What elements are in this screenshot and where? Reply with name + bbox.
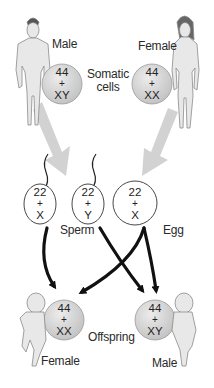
somatic-caption-line2: cells [86, 81, 130, 94]
sex-chromosomes: XX [50, 325, 78, 337]
egg-x-chromosomes: 22 + X [122, 186, 148, 221]
sex-chromosomes: XY [141, 325, 169, 337]
sex-chromosome: X [27, 209, 53, 221]
autosome-count: 44 [141, 302, 169, 314]
autosome-count: 44 [50, 302, 78, 314]
male-somatic-chromosomes: 44 + XY [48, 66, 76, 101]
male-parent-label: Male [52, 38, 77, 51]
sperm-label: Sperm [60, 224, 94, 237]
sex-chromosome: X [122, 209, 148, 221]
male-offspring-label: Male [152, 357, 177, 370]
arrow-spermy-to-male [100, 228, 142, 290]
offspring-caption: Offspring [88, 331, 135, 344]
female-offspring-label: Female [41, 355, 80, 368]
autosome-count: 22 [27, 186, 53, 198]
plus-sign: + [122, 198, 148, 209]
plus-sign: + [48, 78, 76, 89]
sperm-y-chromosomes: 22 + Y [75, 186, 101, 221]
egg-label: Egg [163, 224, 184, 237]
plus-sign: + [75, 198, 101, 209]
sex-chromosomes: XX [138, 89, 166, 101]
arrow-spermx-to-female [44, 228, 54, 286]
arrow-egg-to-male [144, 228, 156, 290]
sex-chromosome: Y [75, 209, 101, 221]
female-offspring-chromosomes: 44 + XX [50, 302, 78, 337]
gray-arrow-female [142, 108, 178, 176]
female-parent-label: Female [138, 40, 177, 53]
autosome-count: 44 [138, 66, 166, 78]
autosome-count: 22 [122, 186, 148, 198]
plus-sign: + [141, 314, 169, 325]
female-adult-figure [172, 16, 199, 128]
autosome-count: 44 [48, 66, 76, 78]
male-adult-figure [16, 18, 50, 125]
female-somatic-chromosomes: 44 + XX [138, 66, 166, 101]
sex-chromosomes: XY [48, 89, 76, 101]
black-arrows [44, 228, 156, 292]
sperm-x-chromosomes: 22 + X [27, 186, 53, 221]
plus-sign: + [50, 314, 78, 325]
plus-sign: + [138, 78, 166, 89]
male-offspring-chromosomes: 44 + XY [141, 302, 169, 337]
somatic-cells-caption: Somatic cells [86, 68, 130, 94]
autosome-count: 22 [75, 186, 101, 198]
plus-sign: + [27, 198, 53, 209]
